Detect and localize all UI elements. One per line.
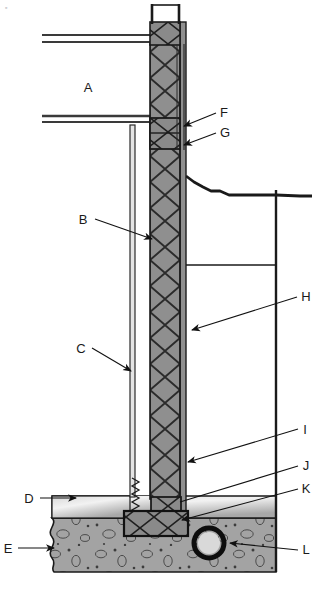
interior-drainage-membrane [130,125,135,497]
perimeter-drain-pipe [194,528,224,558]
callout-label-C: C [76,341,85,356]
callout-label-G: G [220,125,230,140]
callout-label-H: H [301,289,310,304]
callout-label-A: A [84,80,93,95]
upper-floor-assembly [42,35,152,42]
callout-label-K: K [302,481,311,496]
leader-B [95,219,152,239]
leader-F [184,113,216,126]
callout-label-I: I [303,422,307,437]
foundation-section-diagram: A B C D E F G H I J K L ▫ [0,0,328,602]
callout-label-J: J [303,458,310,473]
concrete-footing [124,511,188,536]
exterior-waterproofing-layer [180,22,186,512]
callout-label-E: E [4,541,13,556]
icf-wall-core [150,44,180,499]
leader-G [184,133,216,145]
section-drawing-canvas: A B C D E F G H I J K L ▫ [0,0,328,602]
callout-label-F: F [220,105,228,120]
callout-label-B: B [79,212,88,227]
callout-label-L: L [302,542,309,557]
callout-label-D: D [24,491,33,506]
leader-H [192,297,297,330]
lower-floor-assembly [42,116,152,122]
interior-slab-edge [52,496,130,518]
foundation-wall-assembly [130,4,186,520]
leader-I [188,429,298,462]
top-plate [150,22,180,45]
grade-line [186,176,312,196]
leader-C [92,348,131,371]
corner-mark: ▫ [5,4,7,12]
